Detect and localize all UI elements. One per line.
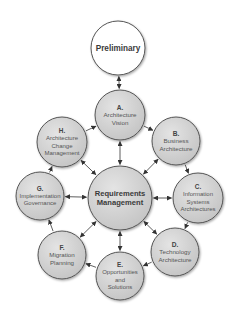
arrow-A-B (144, 126, 153, 130)
phase-letter: G. (37, 185, 44, 192)
bidirectional-arrow-RM-D (144, 221, 157, 234)
nodes-layer: PreliminaryA.ArchitectureVisionB.Busines… (16, 21, 223, 300)
adm-cycle-diagram: PreliminaryA.ArchitectureVisionB.Busines… (0, 0, 236, 323)
phase-label-line: Systems (186, 199, 209, 205)
phase-letter: E. (117, 261, 123, 268)
phase-label-line: Implementation (19, 193, 60, 199)
phase-label-line: Management (44, 150, 79, 156)
phase-label-line: Planning (50, 259, 75, 266)
phase-label-line: Architecture (103, 111, 137, 118)
arrow-F-G (49, 220, 53, 231)
phase-label-line: Solutions (108, 284, 133, 290)
phase-label-line: Architecture (46, 135, 79, 141)
phase-letter: D. (172, 241, 179, 248)
phase-label-line: Change (51, 143, 73, 149)
phase-node-h: H.ArchitectureChangeManagement (37, 117, 87, 167)
bidirectional-arrow-RM-H (81, 160, 96, 174)
phase-node-c: C.InformationSystemsArchitectures (173, 173, 223, 223)
phase-node-b: B.BusinessArchitecture (152, 117, 200, 165)
arrow-D-E (143, 262, 151, 266)
phase-letter: A. (117, 104, 124, 111)
phase-node-a: A.ArchitectureVision (95, 90, 145, 140)
arrow-H-A (86, 126, 96, 131)
phase-label-line: Governance (24, 200, 57, 206)
phase-node-preliminary: Preliminary (91, 21, 145, 75)
phase-label-line: Architecture (158, 256, 192, 263)
bidirectional-arrow-RM-F (80, 221, 96, 237)
phase-label-line: Vision (112, 119, 129, 126)
phase-label-line: Migration (49, 251, 75, 258)
bidirectional-arrow-RM-G (65, 197, 86, 198)
arrow-C-D (185, 222, 188, 228)
arrow-G-H (50, 167, 52, 173)
arrow-E-F (86, 264, 96, 268)
phase-letter: B. (173, 130, 180, 137)
phase-label-line: Technology (159, 248, 191, 255)
arrow-B-C (185, 165, 188, 173)
phase-label-line: Management (97, 198, 144, 207)
phase-label-line: and (115, 277, 125, 283)
phase-label-line: Opportunities (102, 269, 138, 275)
bidirectional-arrow-RM-B (143, 159, 158, 174)
phase-label-line: Business (163, 137, 188, 144)
phase-node-f: F.MigrationPlanning (38, 231, 86, 279)
phase-label-line: Architectures (180, 206, 215, 212)
phase-label-line: Requirements (95, 189, 146, 198)
phase-node-e: E.OpportunitiesandSolutions (96, 252, 144, 300)
phase-label-line: Architecture (159, 145, 193, 152)
phase-node-rm: RequirementsManagement (88, 166, 152, 230)
phase-letter: F. (59, 244, 64, 251)
phase-label-line: Preliminary (96, 44, 141, 53)
phase-node-d: D.TechnologyArchitecture (151, 228, 199, 276)
phase-letter: H. (59, 127, 66, 134)
phase-label-line: Information (183, 191, 213, 197)
phase-letter: C. (195, 183, 202, 190)
phase-node-g: G.ImplementationGovernance (16, 172, 64, 220)
